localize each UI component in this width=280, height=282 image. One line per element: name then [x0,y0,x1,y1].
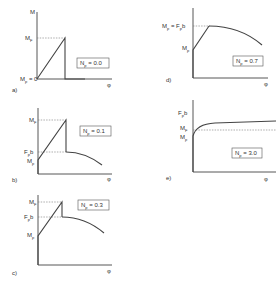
panel-c: φ MF Fpb Mp Np = 0.3 c) [12,195,112,276]
label-fpb: Fpb [178,110,188,118]
curve-c-falling [62,217,104,233]
axis-label-phi: φ [264,81,268,87]
panel-b: φ MF Fpb Mp Np = 0.1 b) [12,108,112,183]
curve-d-falling [209,26,262,45]
panel-letter-a: a) [12,87,17,93]
axis-label-phi: φ [264,176,268,182]
panel-letter-e: e) [166,175,171,181]
panel-d: φ Mp = Fpb Mp Np = 0.7 d) [162,8,268,87]
label-mf: MF [25,35,33,43]
label-mf: MF [29,199,37,207]
panel-letter-d: d) [166,77,171,83]
moment-rotation-diagram: M φ MF Mp = 0 Np = 0.0 a) φ MF Fpb Mp Np… [0,0,280,282]
label-mf-eq-fpb: Mp = Fpb [162,23,186,31]
label-mp: Mp [182,45,190,53]
label-fpb: Fpb [24,149,34,157]
curve-b-rising [38,120,66,174]
label-fpb: Fpb [24,214,34,222]
curve-c-rising [38,202,62,265]
axis-label-phi: φ [107,268,111,274]
axis-label-phi: φ [107,176,111,182]
label-mp: Mp [27,158,35,166]
axis-label-phi: φ [107,82,111,88]
curve-e [193,121,276,172]
curve-d-rising [193,26,209,78]
curve-b-falling [66,152,102,165]
label-mp: Mp [180,134,188,142]
panel-a: M φ MF Mp = 0 Np = 0.0 a) [12,9,112,93]
label-mp: Mp [27,232,35,240]
label-mp-zero: Mp = 0 [20,76,38,84]
panel-e: φ Fpb MF Mp Np = 3.0 e) [166,100,276,182]
label-mf: MF [29,117,37,125]
panel-letter-c: c) [12,270,17,276]
label-mf: MF [180,125,188,133]
panel-letter-b: b) [12,177,17,183]
axis-label-m: M [30,9,35,15]
